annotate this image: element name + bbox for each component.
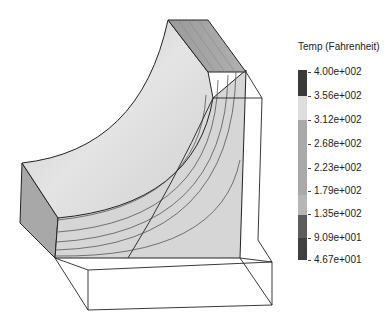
legend-tick: [308, 120, 311, 121]
legend-label: 3.12e+002: [314, 114, 362, 125]
legend-segment: [298, 96, 307, 120]
legend-segment: [298, 120, 307, 195]
legend-label: 9.09e+001: [314, 232, 362, 243]
legend-tick: [308, 144, 311, 145]
legend-segment: [298, 195, 307, 215]
legend-tick: [308, 191, 311, 192]
legend-label: 2.68e+002: [314, 138, 362, 149]
legend-tick: [308, 96, 311, 97]
legend-tick: [308, 214, 311, 215]
legend-label: 4.00e+002: [314, 66, 362, 77]
legend-label: 3.56e+002: [314, 90, 362, 101]
legend-tick: [308, 260, 311, 261]
legend-label: 1.79e+002: [314, 185, 362, 196]
color-legend-bar: [298, 70, 307, 260]
legend-segment: [298, 238, 307, 260]
legend-segment: [298, 70, 307, 96]
legend-label: 2.23e+002: [314, 162, 362, 173]
legend-title: Temp (Fahrenheit): [298, 41, 380, 52]
legend-label: 1.35e+002: [314, 208, 362, 219]
legend-label: 4.67e+001: [314, 254, 362, 265]
legend-tick: [308, 168, 311, 169]
legend-tick: [308, 238, 311, 239]
legend-segment: [298, 215, 307, 238]
legend-tick: [308, 72, 311, 73]
